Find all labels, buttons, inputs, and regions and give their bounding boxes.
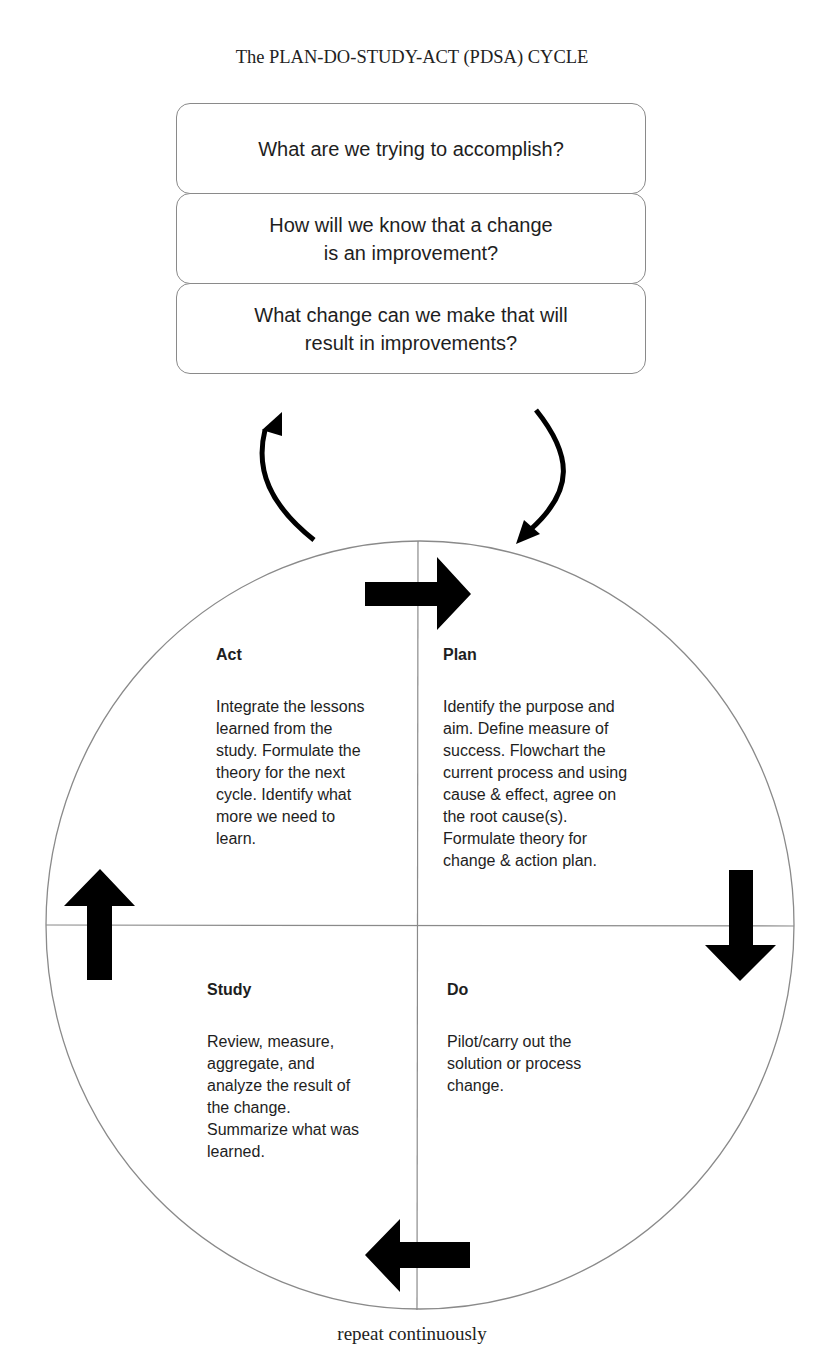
footer-caption: repeat continuously bbox=[0, 1323, 824, 1345]
quadrant-body: Identify the purpose and aim. Define mea… bbox=[443, 696, 627, 872]
quadrant-do: Do Pilot/carry out the solution or proce… bbox=[447, 979, 581, 1097]
quadrant-heading: Act bbox=[216, 644, 365, 666]
quadrant-body: Review, measure, aggregate, and analyze … bbox=[207, 1031, 359, 1163]
quadrant-body: Integrate the lessons learned from the s… bbox=[216, 696, 365, 850]
quadrant-body: Pilot/carry out the solution or process … bbox=[447, 1031, 581, 1097]
quadrant-heading: Do bbox=[447, 979, 581, 1001]
quadrant-act: Act Integrate the lessons learned from t… bbox=[216, 644, 365, 850]
quadrant-study: Study Review, measure, aggregate, and an… bbox=[207, 979, 359, 1163]
cycle-diagram bbox=[0, 0, 824, 1354]
curved-arrow-down-icon bbox=[516, 410, 563, 544]
quadrant-heading: Study bbox=[207, 979, 359, 1001]
quadrant-heading: Plan bbox=[443, 644, 627, 666]
curved-arrow-up-icon bbox=[262, 412, 314, 540]
quadrant-plan: Plan Identify the purpose and aim. Defin… bbox=[443, 644, 627, 872]
horizontal-divider bbox=[46, 925, 794, 926]
